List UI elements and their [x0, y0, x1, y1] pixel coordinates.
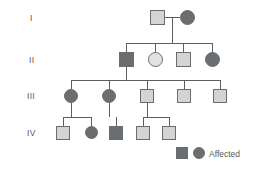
- affected-male-key-icon: [176, 147, 188, 159]
- affected-female-key-icon: [193, 147, 205, 159]
- generation-label-IV: IV: [27, 128, 36, 138]
- pedigree-chart: IIIIIIIV Affected: [0, 0, 260, 169]
- individual-II-3-unaffected-male: [176, 52, 191, 67]
- individual-IV-5-unaffected-male: [162, 126, 176, 140]
- legend-affected-label: Affected: [209, 149, 240, 159]
- individual-I-1-unaffected-male: [150, 10, 165, 25]
- pedigree-connector-lines: [0, 0, 260, 169]
- individual-II-4-affected-female: [205, 52, 220, 67]
- individual-I-2-affected-female: [180, 10, 195, 25]
- individual-II-2-unaffected-female: [148, 52, 163, 67]
- individual-IV-3-affected-male: [109, 126, 123, 140]
- individual-II-1-affected-male: [119, 52, 134, 67]
- individual-IV-1-unaffected-male: [56, 126, 70, 140]
- generation-label-II: II: [29, 55, 34, 65]
- individual-III-4-unaffected-male: [177, 89, 191, 103]
- individual-IV-2-affected-female: [85, 126, 98, 139]
- individual-III-2-affected-female: [102, 89, 116, 103]
- individual-IV-4-unaffected-male: [136, 126, 150, 140]
- generation-label-I: I: [30, 13, 33, 23]
- individual-III-3-unaffected-male: [140, 89, 154, 103]
- individual-III-1-affected-female: [64, 89, 78, 103]
- generation-label-III: III: [27, 91, 35, 101]
- individual-III-5-unaffected-male: [213, 89, 227, 103]
